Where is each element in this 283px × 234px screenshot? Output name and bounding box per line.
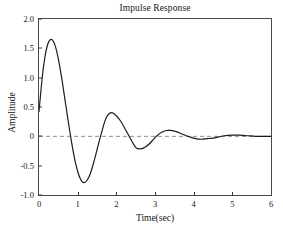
x-tick-mark (116, 192, 117, 196)
y-tick-mark (38, 165, 42, 166)
y-tick-label: 1.0 (23, 73, 34, 82)
y-tick-mark (38, 48, 42, 49)
y-tick-mark (38, 77, 42, 78)
x-tick-mark (232, 192, 233, 196)
y-tick-label: 0 (30, 132, 34, 141)
impulse-response-curve (39, 39, 271, 182)
impulse-response-plot (39, 19, 271, 195)
x-tick-mark (194, 192, 195, 196)
y-tick-mark (38, 136, 42, 137)
x-tick-label: 6 (261, 199, 281, 209)
y-tick-mark (38, 195, 42, 196)
x-tick-mark (155, 192, 156, 196)
impulse-response-figure: Impulse Response Amplitude Time(sec) -1.… (0, 0, 283, 234)
x-tick-label: 5 (222, 199, 242, 209)
y-tick-label: 2.0 (23, 15, 34, 24)
x-tick-label: 2 (106, 199, 126, 209)
x-axis-title: Time(sec) (38, 212, 272, 224)
y-tick-mark (38, 107, 42, 108)
plot-inner (39, 19, 271, 195)
x-tick-mark (78, 192, 79, 196)
x-tick-label: 0 (29, 199, 49, 209)
y-axis-title: Amplitude (7, 77, 18, 149)
y-tick-label: -0.5 (21, 161, 34, 170)
x-tick-label: 4 (184, 199, 204, 209)
plot-area (38, 18, 272, 196)
chart-title: Impulse Response (38, 2, 272, 14)
x-tick-label: 3 (145, 199, 165, 209)
y-tick-mark (38, 19, 42, 20)
y-tick-label: 1.5 (23, 44, 34, 53)
x-tick-label: 1 (68, 199, 88, 209)
y-tick-label: 0.5 (23, 103, 34, 112)
